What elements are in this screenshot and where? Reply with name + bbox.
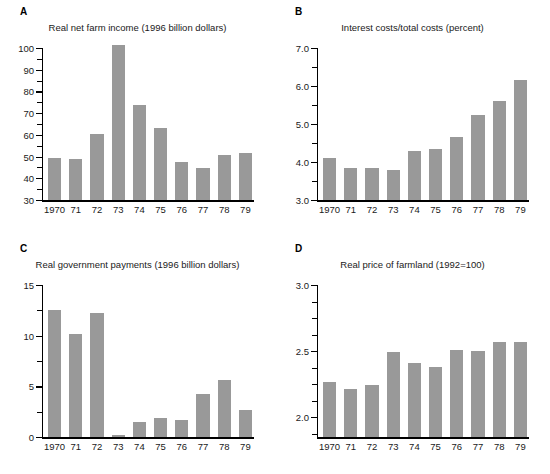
bar (365, 168, 378, 200)
bar (493, 101, 506, 200)
y-axis-tick-label: 5.0 (296, 119, 309, 130)
bar (408, 151, 421, 200)
bar (471, 351, 484, 437)
plot-area-a: 30405060708090100 (42, 48, 254, 200)
y-axis-tick-label: 100 (18, 43, 34, 54)
bar (493, 342, 506, 437)
bar (429, 367, 442, 437)
bar (196, 394, 209, 437)
bar (323, 158, 336, 200)
x-axis-line (317, 437, 529, 439)
plot-area-d: 2.02.53.0 (317, 285, 529, 437)
bar (112, 435, 125, 437)
bar (450, 350, 463, 437)
x-axis-tick-label: 79 (515, 441, 526, 452)
bar (429, 149, 442, 200)
x-axis-tick-label: 71 (346, 441, 357, 452)
bar (133, 105, 146, 200)
bar (239, 153, 252, 200)
bar (344, 389, 357, 437)
y-axis-tick-label: 60 (23, 129, 34, 140)
bar-series (42, 48, 254, 200)
x-axis-tick-label: 77 (473, 441, 484, 452)
x-axis-tick-label: 73 (113, 204, 124, 215)
x-axis-tick-label: 72 (92, 204, 103, 215)
x-axis-tick-label: 72 (367, 204, 378, 215)
panel-c: CReal government payments (1996 billion … (0, 237, 275, 474)
bar (387, 352, 400, 437)
x-axis-line (317, 200, 529, 202)
y-axis-major-tick (36, 200, 42, 201)
y-axis-tick-label: 2.0 (296, 412, 309, 423)
bar (48, 310, 61, 437)
x-axis-tick-label: 71 (346, 204, 357, 215)
x-axis-tick-label: 74 (409, 204, 420, 215)
x-axis-tick-label: 73 (113, 441, 124, 452)
bar (471, 115, 484, 201)
x-axis-tick-label: 76 (177, 204, 188, 215)
panel-title-a: Real net farm income (1996 billion dolla… (0, 22, 275, 33)
bar (90, 313, 103, 437)
x-axis-tick-label: 1970 (319, 441, 340, 452)
bar (90, 134, 103, 200)
bar (133, 422, 146, 437)
x-axis-tick-label: 75 (430, 441, 441, 452)
bar (408, 363, 421, 437)
bar (344, 168, 357, 200)
y-axis-tick-label: 3.0 (296, 195, 309, 206)
x-axis-tick-label: 75 (155, 441, 166, 452)
bar-series (42, 285, 254, 437)
x-axis-tick-label: 1970 (44, 204, 65, 215)
four-panel-bar-chart-figure: AReal net farm income (1996 billion doll… (0, 0, 550, 474)
panel-a: AReal net farm income (1996 billion doll… (0, 0, 275, 237)
x-axis-tick-label: 72 (367, 441, 378, 452)
y-axis-tick-label: 2.5 (296, 346, 309, 357)
bar (196, 168, 209, 200)
x-axis-labels: 1970717273747576777879 (317, 441, 529, 457)
bar (218, 380, 231, 437)
y-axis-tick-label: 5 (29, 381, 34, 392)
x-axis-tick-label: 75 (155, 204, 166, 215)
x-axis-line (42, 437, 254, 439)
panel-d: DReal price of farmland (1992=100)2.02.5… (275, 237, 550, 474)
x-axis-tick-label: 71 (71, 441, 82, 452)
x-axis-tick-label: 73 (388, 204, 399, 215)
panel-letter-a: A (20, 6, 27, 17)
x-axis-line (42, 200, 254, 202)
x-axis-tick-label: 76 (452, 441, 463, 452)
y-axis-tick-label: 10 (23, 330, 34, 341)
x-axis-labels: 1970717273747576777879 (317, 204, 529, 220)
bar (218, 155, 231, 200)
x-axis-labels: 1970717273747576777879 (42, 204, 254, 220)
y-axis-major-tick (36, 437, 42, 438)
x-axis-tick-label: 79 (515, 204, 526, 215)
x-axis-tick-label: 74 (409, 441, 420, 452)
bar (175, 420, 188, 437)
panel-title-d: Real price of farmland (1992=100) (275, 259, 550, 270)
y-axis-tick-label: 70 (23, 108, 34, 119)
bar (154, 418, 167, 437)
x-axis-tick-label: 73 (388, 441, 399, 452)
x-axis-tick-label: 77 (198, 204, 209, 215)
y-axis-tick-label: 7.0 (296, 43, 309, 54)
x-axis-tick-label: 75 (430, 204, 441, 215)
y-axis-tick-label: 80 (23, 86, 34, 97)
x-axis-tick-label: 76 (177, 441, 188, 452)
plot-area-b: 3.04.05.06.07.0 (317, 48, 529, 200)
x-axis-tick-label: 74 (134, 204, 145, 215)
x-axis-labels: 1970717273747576777879 (42, 441, 254, 457)
bar (514, 80, 527, 200)
panel-title-c: Real government payments (1996 billion d… (0, 259, 275, 270)
bar (323, 382, 336, 438)
y-axis-tick-label: 30 (23, 195, 34, 206)
y-axis-tick-label: 90 (23, 64, 34, 75)
x-axis-tick-label: 74 (134, 441, 145, 452)
bar (112, 45, 125, 200)
x-axis-tick-label: 77 (473, 204, 484, 215)
y-axis-tick-label: 40 (23, 173, 34, 184)
panel-b: BInterest costs/total costs (percent)3.0… (275, 0, 550, 237)
x-axis-tick-label: 79 (240, 204, 251, 215)
y-axis-tick-label: 3.0 (296, 280, 309, 291)
bar (48, 158, 61, 200)
bar (450, 137, 463, 200)
